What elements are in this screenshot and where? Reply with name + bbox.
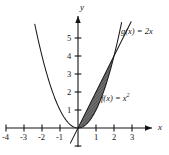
- y-tick-label-4: 4: [67, 52, 71, 61]
- f-function-label-exponent: 2: [127, 92, 130, 98]
- y-axis-label: y: [80, 3, 84, 12]
- g-function-label-text: g(x) = 2x: [121, 26, 153, 36]
- x-tick-label--4: -4: [2, 133, 9, 142]
- x-axis-label: x: [158, 123, 162, 132]
- x-tick-label-1: 1: [94, 133, 98, 142]
- x-tick-label--2: -2: [38, 133, 45, 142]
- y-tick-label-5: 5: [67, 34, 71, 43]
- x-tick-label--3: -3: [20, 133, 27, 142]
- y-axis-arrow: [75, 16, 80, 23]
- x-axis-arrow: [145, 125, 152, 130]
- graph-figure: -4 -3 -2 -1 1 2 3 1 2 3 4 5 y x g(x) = 2…: [0, 0, 169, 155]
- y-tick-label-3: 3: [67, 70, 71, 79]
- f-function-label-text: f(x) = x: [101, 93, 127, 103]
- x-tick-label-2: 2: [112, 133, 116, 142]
- x-tick-label-3: 3: [130, 133, 134, 142]
- y-tick-label-2: 2: [67, 88, 71, 97]
- x-tick-label--1: -1: [56, 133, 63, 142]
- f-function-label: f(x) = x2: [101, 94, 130, 103]
- g-function-label: g(x) = 2x: [121, 27, 153, 36]
- line-curve: [70, 22, 131, 143]
- y-tick-label-1: 1: [67, 106, 71, 115]
